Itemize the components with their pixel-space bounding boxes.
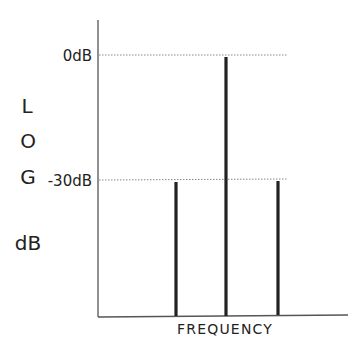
- x-axis: [98, 315, 348, 317]
- y-label-G: G: [20, 165, 36, 189]
- y-tick-0db: 0dB: [63, 47, 92, 65]
- y-label-L: L: [21, 94, 33, 118]
- spectrum-chart: 0dB -30dB L O G dB FREQUENCY: [0, 0, 364, 362]
- y-tick-minus30db: -30dB: [48, 172, 92, 190]
- x-axis-label: FREQUENCY: [177, 321, 273, 337]
- y-label-O: O: [20, 129, 36, 153]
- gridline-minus30db: [99, 179, 287, 180]
- y-label-dB: dB: [15, 231, 41, 255]
